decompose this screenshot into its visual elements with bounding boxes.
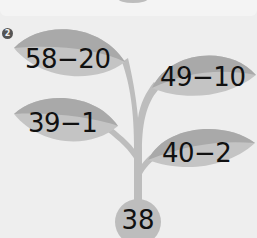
stem (122, 58, 160, 205)
leaf-expression-top-left: 58−20 (25, 46, 110, 72)
root-answer: 38 (113, 207, 163, 233)
leaf-expression-bottom-right: 40−2 (162, 140, 231, 166)
subtraction-plant-worksheet: 2 58−20 49−10 39−1 40−2 38 (0, 0, 257, 238)
leaf-expression-top-right: 49−10 (160, 64, 245, 90)
leaf-expression-bottom-left: 39−1 (28, 110, 97, 136)
problem-number-badge: 2 (2, 28, 13, 39)
